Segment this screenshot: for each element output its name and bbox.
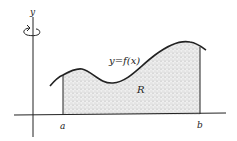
diagram-canvas: y y=f(x) R a b [0,0,237,141]
region-label: R [136,84,145,95]
rotation-arrow-icon [24,25,40,36]
region-r [63,42,200,115]
curve-label: y=f(x) [108,55,140,66]
a-label: a [60,121,65,131]
b-label: b [197,120,203,130]
y-axis-label: y [29,7,36,17]
